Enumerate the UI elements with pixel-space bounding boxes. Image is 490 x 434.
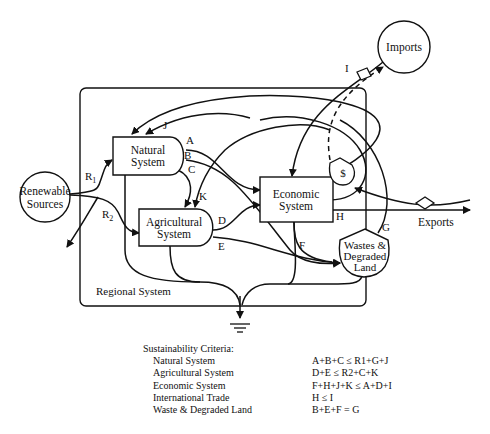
criteria-title: Sustainability Criteria: [143, 343, 392, 355]
flow-j [146, 114, 250, 134]
label-h: H [336, 210, 344, 222]
label-c: C [188, 163, 195, 175]
flow-renewable-loss [67, 197, 98, 247]
money-label: $ [340, 167, 346, 179]
label-j: J [163, 119, 168, 131]
economic-system-line2: System [279, 200, 313, 213]
flow-f-sink [288, 222, 296, 284]
natural-system-line2: System [131, 156, 165, 169]
criteria-equation: F+H+J+K ≤ A+D+I [312, 380, 392, 392]
label-b: B [184, 149, 191, 161]
export-exchange-icon [416, 197, 434, 209]
wastes-line3: Land [354, 261, 377, 273]
flow-e [213, 237, 340, 263]
renewable-sources-node: Renewable Sources [19, 172, 70, 222]
sink-wastes [242, 276, 362, 305]
criteria-row: Economic System F+H+J+K ≤ A+D+I [143, 380, 392, 392]
imports-node: Imports [378, 21, 430, 73]
criteria-name: International Trade [143, 392, 312, 404]
wastes-degraded-land-node: Wastes & Degraded Land [339, 229, 389, 277]
flow-a [186, 150, 260, 190]
criteria-name: Agricultural System [143, 367, 312, 379]
imports-label: Imports [386, 41, 422, 54]
label-k: K [199, 190, 207, 202]
exports-label: Exports [418, 216, 454, 229]
criteria-row: Agricultural System D+E ≤ R2+C+K [143, 367, 392, 379]
heat-sink-icon [230, 324, 250, 332]
label-r2: R2 [102, 208, 113, 223]
renewable-sources-line2: Sources [27, 198, 64, 210]
criteria-name: Waste & Degraded Land [143, 404, 312, 416]
label-f: F [299, 239, 305, 251]
criteria-equation: D+E ≤ R2+C+K [312, 367, 378, 379]
label-a: A [186, 134, 194, 146]
flow-money-to-imports [328, 67, 383, 160]
criteria-equation: A+B+C ≤ R1+G+J [312, 355, 388, 367]
flow-export-money [355, 188, 470, 205]
import-exchange-icon [357, 68, 371, 80]
natural-system-line1: Natural [131, 144, 165, 156]
label-i: I [345, 62, 349, 74]
regional-system-label: Regional System [96, 285, 171, 297]
criteria-name: Natural System [143, 355, 312, 367]
label-r1: R1 [85, 170, 96, 185]
criteria-row: Natural System A+B+C ≤ R1+G+J [143, 355, 392, 367]
renewable-sources-line1: Renewable [19, 185, 70, 197]
criteria-equation: H ≤ I [312, 392, 333, 404]
criteria-row: International Trade H ≤ I [143, 392, 392, 404]
label-g: G [382, 221, 390, 233]
sustainability-criteria: Sustainability Criteria: Natural System … [143, 343, 392, 416]
criteria-name: Economic System [143, 380, 312, 392]
money-node: $ [330, 158, 355, 185]
economic-system-node: Economic System [260, 177, 333, 222]
criteria-row: Waste & Degraded Land B+E+F = G [143, 404, 392, 416]
label-d: D [218, 214, 226, 226]
label-e: E [218, 240, 225, 252]
sink-agricultural [170, 246, 200, 282]
natural-system-node: Natural System [113, 137, 184, 175]
flow-c [178, 170, 191, 207]
economic-system-line1: Economic [273, 188, 320, 200]
agricultural-system-line2: System [157, 228, 191, 241]
agricultural-system-node: Agricultural System [139, 209, 213, 246]
criteria-equation: B+E+F = G [312, 404, 359, 416]
